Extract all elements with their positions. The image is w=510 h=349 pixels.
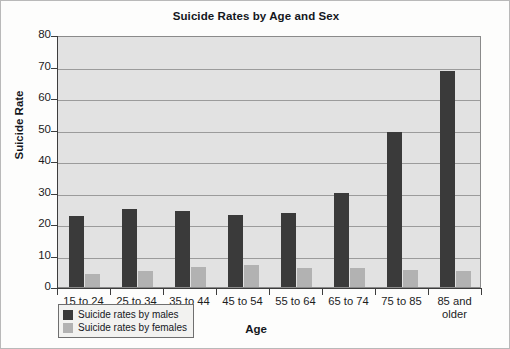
bar — [297, 268, 312, 287]
legend-label: Suicide rates by females — [78, 322, 187, 333]
y-tick-mark — [51, 257, 58, 258]
x-tick-label: 75 to 85 — [372, 295, 432, 308]
y-tick-mark — [51, 68, 58, 69]
gridline — [58, 132, 480, 133]
y-tick-label: 0 — [7, 280, 51, 292]
legend-item: Suicide rates by males — [63, 308, 187, 321]
bar — [334, 193, 349, 287]
bar — [281, 213, 296, 287]
bar — [244, 265, 259, 287]
legend-swatch-icon — [63, 323, 73, 333]
y-tick-label: 80 — [7, 28, 51, 40]
gridline — [58, 100, 480, 101]
y-tick-label: 10 — [7, 249, 51, 261]
bar — [138, 271, 153, 287]
legend-label: Suicide rates by males — [78, 309, 179, 320]
bar — [69, 216, 84, 287]
y-tick-mark — [51, 131, 58, 132]
y-tick-mark — [51, 162, 58, 163]
y-tick-mark — [51, 99, 58, 100]
legend-swatch-icon — [63, 310, 73, 320]
chart-title: Suicide Rates by Age and Sex — [1, 10, 510, 22]
bar — [122, 209, 137, 287]
bar — [228, 215, 243, 287]
y-tick-mark — [51, 225, 58, 226]
chart-legend: Suicide rates by malesSuicide rates by f… — [58, 304, 194, 338]
x-tick-label: 45 to 54 — [213, 295, 273, 308]
chart-figure: Suicide Rates by Age and Sex 01020304050… — [0, 0, 510, 349]
bar — [175, 211, 190, 287]
x-tick-label: 65 to 74 — [319, 295, 379, 308]
y-tick-mark — [51, 36, 58, 37]
y-tick-label: 20 — [7, 217, 51, 229]
x-tick-label: 55 to 64 — [266, 295, 326, 308]
bar — [440, 71, 455, 287]
x-tick-mark — [481, 289, 482, 295]
plot-area — [57, 36, 481, 288]
y-axis-title: Suicide Rate — [13, 65, 25, 185]
bar — [403, 270, 418, 287]
bar — [387, 132, 402, 287]
gridline — [58, 69, 480, 70]
gridline — [58, 195, 480, 196]
legend-item: Suicide rates by females — [63, 321, 187, 334]
bar — [456, 271, 471, 287]
bar — [191, 267, 206, 287]
y-tick-mark — [51, 194, 58, 195]
bar — [85, 274, 100, 287]
x-tick-label: 85 and older — [425, 295, 485, 321]
y-tick-label: 30 — [7, 186, 51, 198]
bar — [350, 268, 365, 287]
gridline — [58, 163, 480, 164]
